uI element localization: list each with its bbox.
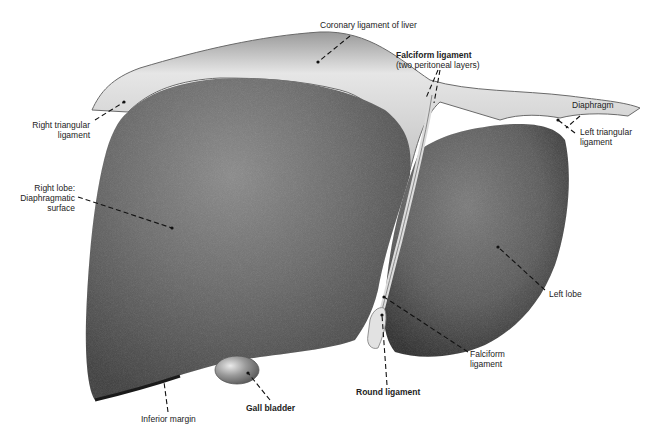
label-right-triangular-ligament: Right triangular ligament <box>20 120 90 140</box>
label-coronary-ligament: Coronary ligament of liver <box>320 20 417 30</box>
label-line: ligament <box>20 130 90 140</box>
label-line: Left triangular <box>580 127 632 137</box>
label-inferior-margin: Inferior margin <box>141 414 196 424</box>
label-gall-bladder: Gall bladder <box>246 403 295 413</box>
liver-illustration <box>0 0 655 439</box>
label-line: Diaphragmatic <box>10 193 75 203</box>
label-right-lobe: Right lobe: Diaphragmatic surface <box>10 183 75 213</box>
label-diaphragm: Diaphragm <box>572 100 614 110</box>
label-left-lobe: Left lobe <box>549 289 582 299</box>
label-line: ligament <box>580 137 632 147</box>
label-line: Falciform <box>470 349 505 359</box>
label-line: surface <box>10 203 75 213</box>
label-round-ligament: Round ligament <box>356 387 420 397</box>
gall-bladder <box>215 356 259 384</box>
label-line: Right triangular <box>20 120 90 130</box>
label-left-triangular-ligament: Left triangular ligament <box>580 127 632 147</box>
label-line: Right lobe: <box>10 183 75 193</box>
label-falciform-sublabel: (two peritoneal layers) <box>396 60 480 70</box>
label-falciform-ligament-top: Falciform ligament <box>396 50 472 60</box>
label-falciform-ligament-bottom: Falciform ligament <box>470 349 505 369</box>
label-line: ligament <box>470 359 505 369</box>
